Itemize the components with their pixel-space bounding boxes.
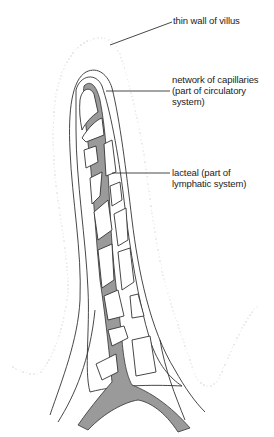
label-lacteal: lacteal (part of lymphatic system) bbox=[172, 167, 246, 189]
label-network-of-capillaries: network of capillaries (part of circulat… bbox=[172, 74, 259, 107]
villus-diagram bbox=[0, 0, 274, 437]
label-thin-wall-of-villus: thin wall of villus bbox=[173, 15, 240, 26]
villus-inner-boundary bbox=[50, 70, 205, 422]
leader-lines bbox=[106, 22, 172, 173]
leader-wall bbox=[110, 22, 172, 45]
